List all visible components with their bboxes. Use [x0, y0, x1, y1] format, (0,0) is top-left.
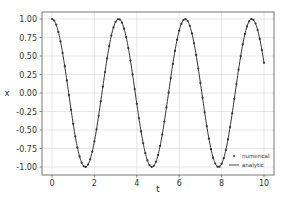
data-point: [197, 67, 199, 69]
data-point: [221, 163, 223, 165]
data-point: [76, 146, 78, 148]
data-point: [235, 83, 237, 85]
data-point: [163, 120, 165, 122]
data-point: [237, 69, 239, 71]
data-point: [250, 18, 252, 20]
data-point: [112, 26, 114, 28]
data-point: [51, 18, 53, 20]
data-point: [191, 32, 193, 34]
data-point: [66, 79, 68, 81]
data-point: [204, 111, 206, 113]
x-tick-label: 0: [49, 179, 54, 188]
data-point: [229, 126, 231, 128]
data-point: [95, 128, 97, 130]
data-point: [142, 142, 144, 144]
data-point: [144, 152, 146, 154]
data-point: [178, 29, 180, 31]
data-point: [138, 117, 140, 119]
data-point: [78, 155, 80, 157]
data-point: [85, 166, 87, 168]
data-point: [240, 55, 242, 57]
data-point: [102, 85, 104, 87]
data-point: [168, 92, 170, 94]
data-point: [123, 28, 125, 30]
data-point: [100, 100, 102, 102]
data-point: [225, 149, 227, 151]
data-point: [195, 54, 197, 56]
data-point: [110, 35, 112, 37]
data-point: [231, 112, 233, 114]
data-point: [257, 29, 259, 31]
y-tick-label: -0.75: [16, 145, 37, 154]
data-point: [55, 24, 57, 26]
data-point: [148, 164, 150, 166]
data-point: [244, 33, 246, 35]
data-point: [210, 148, 212, 150]
data-point: [134, 88, 136, 90]
x-tick-label: 6: [177, 179, 182, 188]
data-point: [159, 145, 161, 147]
data-point: [64, 65, 66, 67]
data-point: [184, 18, 186, 20]
data-point: [89, 158, 91, 160]
data-point: [259, 38, 261, 40]
data-point: [108, 45, 110, 47]
data-point: [129, 59, 131, 61]
y-tick-label: 1.00: [19, 15, 37, 24]
data-point: [106, 57, 108, 59]
data-point: [127, 47, 129, 49]
data-point: [68, 94, 70, 96]
data-point: [193, 42, 195, 44]
data-point: [125, 36, 127, 38]
data-point: [53, 19, 55, 21]
data-point: [223, 157, 225, 159]
legend-label-numerical: numerical: [242, 153, 270, 159]
legend-marker-numerical: [233, 155, 235, 157]
x-tick-label: 2: [92, 179, 97, 188]
data-point: [176, 39, 178, 41]
data-point: [104, 71, 106, 73]
data-point: [254, 22, 256, 24]
data-point: [93, 140, 95, 142]
data-point: [233, 98, 235, 100]
data-point: [131, 73, 133, 75]
data-point: [216, 165, 218, 167]
data-point: [74, 135, 76, 137]
data-point: [87, 163, 89, 165]
data-point: [157, 154, 159, 156]
legend-label-analytic: analytic: [242, 162, 264, 169]
data-point: [146, 159, 148, 161]
data-point: [208, 137, 210, 139]
chart: 02468101.000.750.500.250.00-0.25-0.50-0.…: [0, 0, 288, 204]
data-point: [248, 20, 250, 22]
data-point: [83, 165, 85, 167]
x-tick-label: 4: [134, 179, 139, 188]
data-point: [81, 162, 83, 164]
y-tick-label: 0.25: [19, 71, 37, 80]
data-point: [140, 130, 142, 132]
y-tick-label: 0.75: [19, 34, 37, 43]
data-point: [121, 22, 123, 24]
data-point: [252, 19, 254, 21]
data-point: [174, 50, 176, 52]
data-point: [153, 165, 155, 167]
data-point: [57, 31, 59, 33]
data-point: [206, 125, 208, 127]
data-point: [151, 166, 153, 168]
y-tick-label: -0.50: [16, 126, 37, 135]
data-point: [62, 52, 64, 54]
y-tick-label: -1.00: [16, 163, 37, 172]
y-tick-label: 0.00: [19, 89, 37, 98]
data-point: [180, 23, 182, 25]
x-tick-label: 10: [259, 179, 269, 188]
x-axis-label: t: [156, 184, 160, 194]
data-point: [172, 63, 174, 65]
data-point: [115, 21, 117, 23]
data-point: [72, 123, 74, 125]
data-point: [59, 40, 61, 42]
plot-area: [42, 12, 274, 175]
data-point: [155, 161, 157, 163]
data-point: [119, 18, 121, 20]
data-point: [246, 25, 248, 27]
data-point: [199, 82, 201, 84]
